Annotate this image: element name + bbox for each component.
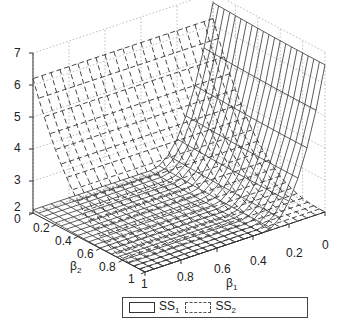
y-tick: 1: [128, 272, 135, 286]
x-tick: 0.6: [214, 262, 231, 276]
legend-label-ss2: SS2: [215, 299, 235, 315]
legend-label-ss1: SS1: [159, 299, 179, 315]
legend-swatch-dashed: [185, 302, 211, 313]
legend: SS1 SS2: [122, 297, 308, 318]
surface-plot: 7 6 5 4 3 2 0 0.2 0.4 0.6 0.8 1 1 0.8 0.…: [0, 0, 342, 330]
z-tick: 6: [14, 78, 21, 92]
y-axis-label: β2: [70, 259, 82, 275]
x-tick: 0.4: [250, 254, 267, 268]
y-tick: 0.6: [77, 247, 94, 261]
ss1-mesh: [33, 3, 325, 272]
y-tick: 0.8: [99, 260, 116, 274]
ss2-mesh: [33, 19, 325, 272]
x-tick: 1: [141, 277, 148, 291]
x-tick: 0.2: [286, 246, 303, 260]
x-tick: 0.8: [177, 270, 194, 284]
y-tick: 0.4: [55, 234, 72, 248]
y-tick: 0: [14, 212, 21, 226]
z-tick: 4: [14, 141, 21, 155]
x-axis-label: β1: [226, 276, 238, 292]
y-tick: 0.2: [33, 221, 50, 235]
z-tick: 5: [14, 110, 21, 124]
z-tick: 7: [14, 46, 21, 60]
x-tick: 0: [322, 238, 329, 252]
z-tick: 3: [14, 173, 21, 187]
legend-swatch-solid: [129, 302, 155, 313]
z-axis-ticks: 7 6 5 4 3 2: [14, 46, 21, 214]
